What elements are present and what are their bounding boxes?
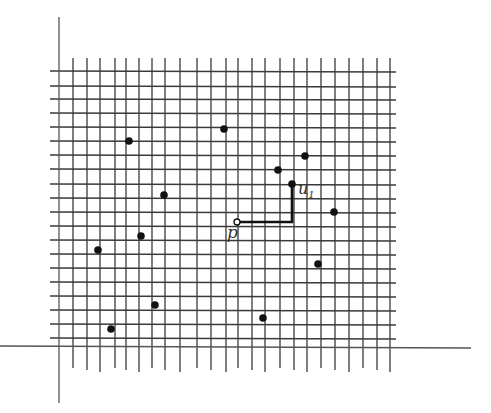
point-set — [94, 125, 338, 333]
grid-horizontal-line — [50, 282, 396, 283]
data-point — [259, 314, 267, 322]
grid-horizontal-line — [50, 226, 396, 227]
grid-horizontal-line — [50, 198, 396, 199]
label-u1-main: u — [298, 179, 308, 198]
grid-horizontal-line — [50, 71, 396, 72]
label-u1-subscript: 1 — [308, 189, 314, 200]
grid-horizontal-lines — [50, 71, 396, 339]
grid-horizontal-line — [50, 268, 396, 269]
data-point — [137, 232, 145, 240]
data-point — [107, 325, 115, 333]
grid-horizontal-line — [50, 184, 396, 185]
data-point — [288, 180, 296, 188]
grid-horizontal-line — [50, 310, 396, 311]
label-p: p — [227, 222, 238, 242]
data-point — [274, 166, 282, 174]
data-point — [330, 208, 338, 216]
grid-horizontal-line — [50, 155, 396, 156]
grid-horizontal-line — [50, 113, 396, 114]
data-point — [220, 125, 228, 133]
grid-horizontal-line — [50, 212, 396, 213]
grid-horizontal-line — [50, 254, 396, 255]
horizontal-axis — [0, 346, 471, 348]
grid-horizontal-line — [50, 296, 396, 297]
grid-horizontal-line — [50, 169, 396, 170]
data-point — [94, 246, 102, 254]
label-u1: u1 — [298, 179, 315, 200]
grid-horizontal-line — [50, 324, 396, 325]
data-point — [301, 152, 309, 160]
grid-diagram: p u1 — [0, 0, 491, 413]
grid-horizontal-line — [50, 86, 396, 87]
grid-horizontal-line — [50, 240, 396, 241]
grid-horizontal-line — [50, 99, 396, 100]
grid-horizontal-line — [50, 338, 396, 339]
grid-horizontal-line — [50, 141, 396, 142]
data-point — [125, 137, 133, 145]
data-point — [151, 301, 159, 309]
data-point — [314, 260, 322, 268]
data-point — [160, 191, 168, 199]
